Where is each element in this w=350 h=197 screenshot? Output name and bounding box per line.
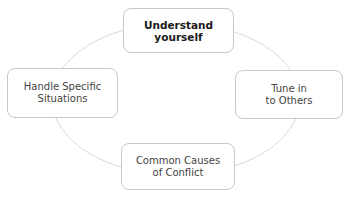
node-common-causes-of-conflict: Common Causes of Conflict — [121, 143, 235, 190]
node-label: Understand yourself — [144, 19, 213, 43]
node-label: Tune in to Others — [266, 83, 313, 107]
node-understand-yourself: Understand yourself — [123, 8, 234, 53]
node-handle-specific-situations: Handle Specific Situations — [7, 68, 118, 118]
node-label: Common Causes of Conflict — [136, 155, 220, 179]
node-label: Handle Specific Situations — [24, 81, 101, 105]
node-tune-in-to-others: Tune in to Others — [235, 70, 343, 119]
